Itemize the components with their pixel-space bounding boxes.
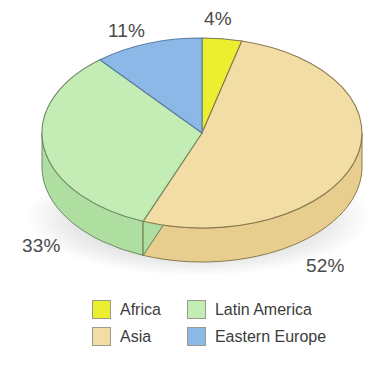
data-label-africa: 4% [204,8,232,30]
legend-item-latin-america: Latin America [187,300,326,319]
legend-swatch-asia [92,327,111,346]
legend-label-eastern-europe: Eastern Europe [215,329,326,345]
chart-legend: Africa Latin America Asia Eastern Europe [92,300,322,346]
legend-item-eastern-europe: Eastern Europe [187,327,326,346]
legend-swatch-eastern-europe [187,327,206,346]
pie-top-faces [42,38,362,228]
data-label-eastern-europe: 11% [108,20,145,42]
data-label-latin-america: 33% [22,235,61,257]
legend-label-asia: Asia [120,329,151,345]
legend-swatch-latin-america [187,300,206,319]
legend-label-africa: Africa [120,302,161,318]
legend-item-africa: Africa [92,300,161,319]
legend-swatch-africa [92,300,111,319]
legend-label-latin-america: Latin America [215,302,312,318]
data-label-asia: 52% [306,255,345,277]
pie-chart: 4% 11% 33% 52% Africa Latin America Asia… [0,0,388,390]
legend-item-asia: Asia [92,327,161,346]
